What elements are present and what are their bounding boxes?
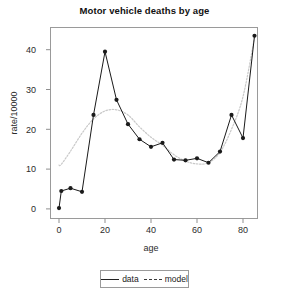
y-axis-ticks: [46, 50, 51, 209]
x-axis-ticks: [59, 219, 243, 224]
y-tick-label-0: 0: [14, 204, 36, 214]
data-point-marker: [91, 113, 95, 117]
series-markers-data: [57, 34, 257, 211]
y-tick-label-10: 10: [14, 164, 36, 174]
legend-label-model: model: [165, 274, 188, 284]
data-point-marker: [183, 158, 187, 162]
legend-label-data: data: [122, 274, 139, 284]
data-point-marker: [218, 149, 222, 153]
y-tick-label-40: 40: [14, 45, 36, 55]
chart-legend: data model: [100, 270, 189, 288]
legend-entry-data: data: [101, 274, 139, 284]
x-tick-label-60: 60: [186, 225, 208, 235]
solid-line-glyph-icon: [101, 276, 119, 283]
data-point-marker: [252, 34, 256, 38]
series-line-data: [59, 36, 255, 208]
x-tick-label-0: 0: [48, 225, 70, 235]
dashed-line-glyph-icon: [144, 276, 162, 283]
chart-figure: Motor vehicle deaths by age 40 30 20 10 …: [0, 0, 289, 297]
legend-entry-model: model: [144, 274, 188, 284]
x-tick-label-40: 40: [140, 225, 162, 235]
data-point-marker: [160, 141, 164, 145]
data-point-marker: [114, 98, 118, 102]
data-point-marker: [149, 145, 153, 149]
data-point-marker: [195, 156, 199, 160]
data-point-marker: [229, 113, 233, 117]
x-tick-label-80: 80: [232, 225, 254, 235]
data-point-marker: [68, 186, 72, 190]
data-point-marker: [80, 190, 84, 194]
x-tick-label-20: 20: [94, 225, 116, 235]
data-point-marker: [172, 157, 176, 161]
data-point-marker: [126, 122, 130, 126]
x-axis-label: age: [59, 243, 243, 253]
data-point-marker: [57, 206, 61, 210]
data-point-marker: [137, 137, 141, 141]
data-point-marker: [206, 161, 210, 165]
data-point-marker: [59, 189, 63, 193]
y-axis-label: rate/10000: [9, 78, 19, 148]
data-point-marker: [241, 136, 245, 140]
data-point-marker: [103, 50, 107, 54]
